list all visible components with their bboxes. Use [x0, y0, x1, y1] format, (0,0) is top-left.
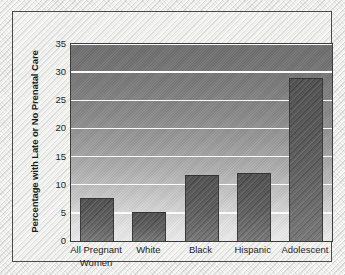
bar	[289, 78, 323, 241]
bar	[132, 212, 166, 241]
figure-container: Percentage with Late or No Prenatal Care…	[0, 0, 345, 275]
y-tick-label: 0	[44, 235, 66, 246]
x-tick-label: Hispanic	[234, 244, 270, 257]
x-tick-label-line: Women	[70, 257, 122, 270]
y-axis-tick-labels: 05101520253035	[44, 43, 66, 240]
bar-texture	[290, 79, 322, 241]
x-tick-label: Adolescent	[281, 244, 328, 257]
y-tick-label: 5	[44, 206, 66, 217]
y-tick-label: 35	[44, 38, 66, 49]
plot-area	[70, 43, 333, 242]
y-tick-label: 20	[44, 122, 66, 133]
bar	[185, 175, 219, 241]
y-tick-label: 25	[44, 94, 66, 105]
bar-texture	[133, 213, 165, 241]
y-tick-label: 10	[44, 178, 66, 189]
x-tick-label-line: All Pregnant	[70, 244, 122, 257]
x-tick-label: All PregnantWomen	[70, 244, 122, 269]
bar-texture	[186, 176, 218, 241]
gridline	[71, 71, 332, 72]
bar-texture	[81, 199, 113, 241]
x-axis-tick-labels: All PregnantWomenWhiteBlackHispanicAdole…	[70, 244, 331, 275]
gridline	[71, 43, 332, 44]
x-tick-label-line: Black	[189, 244, 212, 257]
x-tick-label-line: Adolescent	[281, 244, 328, 257]
bar-texture	[238, 174, 270, 241]
y-tick-label: 30	[44, 66, 66, 77]
x-tick-label-line: White	[136, 244, 160, 257]
y-axis-title: Percentage with Late or No Prenatal Care	[27, 43, 41, 240]
bar	[237, 173, 271, 241]
bar	[80, 198, 114, 241]
x-tick-label: Black	[189, 244, 212, 257]
chart-frame: Percentage with Late or No Prenatal Care…	[12, 11, 332, 262]
y-tick-label: 15	[44, 150, 66, 161]
x-tick-label-line: Hispanic	[234, 244, 270, 257]
x-tick-label: White	[136, 244, 160, 257]
